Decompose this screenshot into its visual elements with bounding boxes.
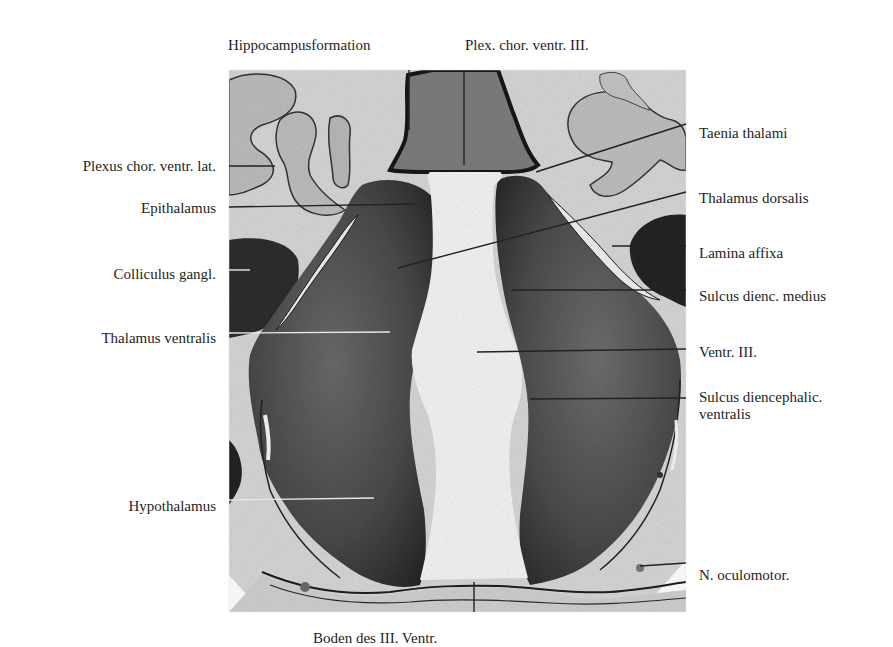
label-epithalamus: Epithalamus (141, 200, 216, 217)
label-plex-chor-ventr-iii: Plex. chor. ventr. III. (465, 37, 589, 54)
anatomical-figure: Hippocampusformation Plex. chor. ventr. … (0, 0, 893, 647)
leader-line-sulcus-diencephalic-ventralis (530, 398, 686, 399)
label-sulcus-diencephalic-ventralis: Sulcus diencephalic. ventralis (699, 389, 889, 423)
leader-line-thalamus-ventralis (229, 332, 390, 333)
label-hypothalamus: Hypothalamus (129, 498, 217, 515)
label-ventr-iii: Ventr. III. (699, 344, 757, 361)
label-boden-des-iii-ventr: Boden des III. Ventr. (313, 630, 437, 647)
label-taenia-thalami: Taenia thalami (699, 125, 788, 142)
histology-section-image (0, 0, 893, 647)
label-n-oculomotor: N. oculomotor. (699, 567, 789, 584)
label-hippocampusformation: Hippocampusformation (228, 37, 370, 54)
label-colliculus-gangl: Colliculus gangl. (114, 266, 217, 283)
label-plexus-chor-ventr-lat: Plexus chor. ventr. lat. (83, 158, 216, 175)
label-thalamus-ventralis: Thalamus ventralis (101, 330, 216, 347)
label-thalamus-dorsalis: Thalamus dorsalis (699, 190, 809, 207)
label-sulcus-dienc-medius: Sulcus dienc. medius (699, 288, 826, 305)
label-lamina-affixa: Lamina affixa (699, 245, 783, 262)
